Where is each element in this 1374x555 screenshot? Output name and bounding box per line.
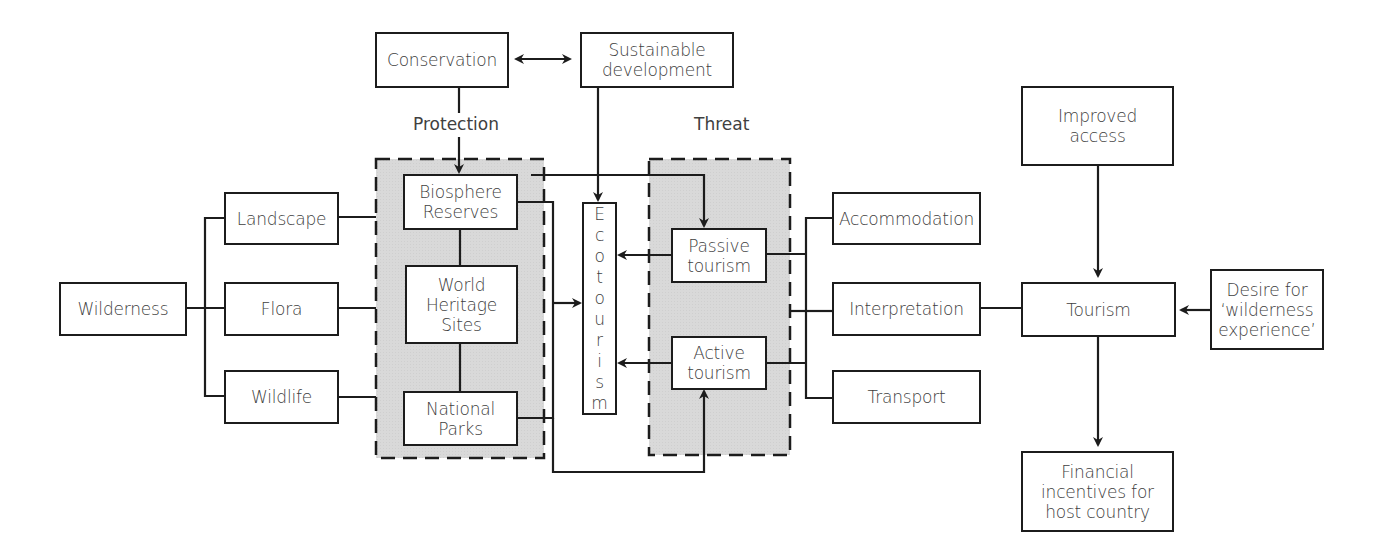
node-label: Transport — [868, 387, 946, 407]
node-active-tourism: Active tourism — [671, 336, 767, 390]
threat-label: Threat — [691, 114, 752, 134]
node-wilderness: Wilderness — [59, 282, 187, 336]
node-desire-wilderness-experience: Desire for ‘wilderness experience’ — [1210, 269, 1324, 350]
ecotourism-letter: r — [591, 330, 607, 351]
node-label: National Parks — [426, 399, 495, 439]
node-financial-incentives: Financial incentives for host country — [1021, 451, 1174, 532]
node-accommodation: Accommodation — [832, 192, 981, 245]
node-sustainable-development: Sustainable development — [580, 32, 734, 88]
ecotourism-letter: i — [591, 351, 607, 372]
node-biosphere-reserves: Biosphere Reserves — [403, 174, 518, 230]
node-improved-access: Improved access — [1021, 86, 1174, 166]
ecotourism-letter: o — [591, 246, 607, 267]
node-label: Sustainable development — [602, 40, 712, 80]
node-world-heritage-sites: World Heritage Sites — [405, 265, 518, 344]
node-national-parks: National Parks — [403, 391, 518, 446]
node-label: Landscape — [237, 209, 327, 229]
node-label-vertical: Ecotourism — [591, 204, 607, 414]
node-interpretation: Interpretation — [832, 282, 981, 336]
node-label: Desire for ‘wilderness experience’ — [1218, 280, 1315, 340]
node-transport: Transport — [832, 370, 981, 424]
ecotourism-letter: o — [591, 288, 607, 309]
node-label: World Heritage Sites — [426, 275, 497, 335]
ecotourism-letter: m — [591, 393, 607, 414]
ecotourism-diagram: Protection Threat Conservation Sustainab… — [0, 0, 1374, 555]
node-label: Wildlife — [251, 387, 312, 407]
node-label: Tourism — [1066, 300, 1130, 320]
node-label: Financial incentives for host country — [1041, 462, 1154, 522]
node-label: Accommodation — [839, 209, 974, 229]
node-label: Wilderness — [78, 299, 169, 319]
node-passive-tourism: Passive tourism — [671, 228, 767, 283]
node-conservation: Conservation — [375, 32, 509, 88]
node-label: Active tourism — [687, 343, 751, 383]
ecotourism-letter: t — [591, 267, 607, 288]
node-label: Flora — [261, 299, 302, 319]
ecotourism-letter: E — [591, 204, 607, 225]
threat-zone-border — [649, 159, 790, 455]
node-wildlife: Wildlife — [224, 370, 339, 424]
protection-label: Protection — [410, 114, 502, 134]
node-flora: Flora — [224, 282, 339, 336]
node-label: Biosphere Reserves — [419, 182, 501, 222]
node-label: Passive tourism — [687, 236, 751, 276]
ecotourism-letter: c — [591, 225, 607, 246]
node-label: Interpretation — [849, 299, 964, 319]
node-label: Conservation — [387, 50, 497, 70]
node-tourism: Tourism — [1021, 282, 1176, 337]
node-ecotourism: Ecotourism — [582, 202, 617, 415]
node-label: Improved access — [1058, 106, 1137, 146]
ecotourism-letter: u — [591, 309, 607, 330]
ecotourism-letter: s — [591, 372, 607, 393]
node-landscape: Landscape — [224, 192, 339, 245]
